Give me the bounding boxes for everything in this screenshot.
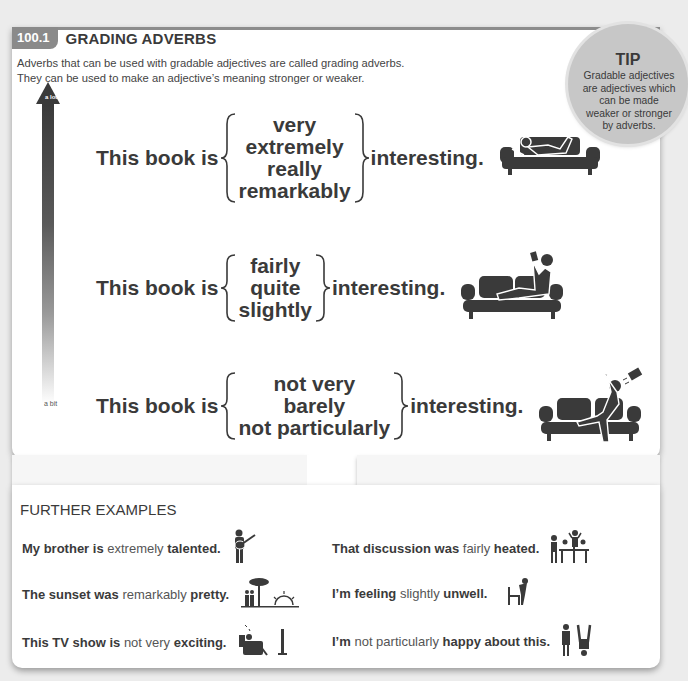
example-adverb: fairly [463,541,490,556]
right-brace-icon [351,112,371,204]
intensity-scale-arrow-icon [37,82,59,412]
example-lead: This book is [96,394,219,418]
intro-line: Adverbs that can be used with gradable a… [17,56,537,71]
example-text: unwell. [443,586,487,601]
example-text: heated. [494,541,540,556]
example-tail: interesting. [332,276,445,300]
example-text: That discussion was [332,541,459,556]
person-reclining-reading-on-couch-icon [459,250,565,326]
example-lead: This book is [96,146,219,170]
person-throwing-book-on-couch-icon [537,364,647,448]
upset-person-and-child-icon [560,623,592,660]
adverb-options: fairly quite slightly [239,255,313,321]
adverb-option: extremely [246,136,344,158]
further-example: That discussion was fairly heated. [332,529,589,568]
example-text: exciting. [174,635,227,650]
section-header: 100.1 GRADING ADVERBS [12,27,216,49]
people-arguing-at-table-icon [549,529,589,568]
adverb-option: fairly [250,255,300,277]
intro-text: Adverbs that can be used with gradable a… [17,56,537,86]
tip-title: TIP [568,52,688,68]
adverb-option: very [273,114,316,136]
example-adverb: remarkably [122,587,186,602]
example-row-medium: This book is fairly quite slightly inter… [96,250,565,326]
example-text: talented. [167,541,220,556]
adverb-option: really [267,158,322,180]
section-number-badge: 100.1 [12,27,58,49]
tab-connector [12,455,307,485]
adverb-option: slightly [239,299,313,321]
example-adverb: extremely [107,541,163,556]
example-adverb: not particularly [354,634,439,649]
tip-text: Gradable adjectives are adjectives which… [582,70,676,133]
scale-bottom-label: a bit [44,400,57,407]
left-brace-icon [219,253,239,323]
further-example: I’m feeling slightly unwell. [332,577,531,610]
adverb-option: barely [283,395,345,417]
person-lying-on-couch-icon [498,133,602,183]
section-title: GRADING ADVERBS [66,30,217,47]
further-example: This TV show is not very exciting. [22,623,291,662]
adverb-option: not very [274,373,356,395]
person-sleeping-in-front-of-tv-icon [237,623,291,662]
example-row-weak: This book is not very barely not particu… [96,364,647,448]
couple-watching-sunset-icon [239,577,299,612]
guitar-player-icon [231,529,257,568]
adverb-option: not particularly [239,417,391,439]
left-brace-icon [219,371,239,441]
example-row-strong: This book is very extremely really remar… [96,112,602,204]
example-text: I’m [332,634,351,649]
scale-top-label: a lot [45,94,57,100]
arrow-head [36,82,60,104]
example-text: This TV show is [22,635,120,650]
example-text: I’m feeling [332,586,396,601]
further-example: I’m not particularly happy about this. [332,623,592,660]
adverb-option: quite [250,277,300,299]
example-lead: This book is [96,276,219,300]
further-examples-panel: FURTHER EXAMPLES My brother is extremely… [12,485,660,668]
example-text: pretty. [190,587,229,602]
adverb-option: remarkably [239,180,351,202]
example-text: happy about this. [443,634,551,649]
right-brace-icon [312,253,332,323]
further-examples-title: FURTHER EXAMPLES [20,501,176,518]
arrow-shaft [42,104,54,404]
adverb-options: very extremely really remarkably [239,114,351,202]
example-tail: interesting. [410,394,523,418]
example-adverb: slightly [400,586,440,601]
person-feeling-sick-icon [507,577,531,610]
tab-gap [307,455,357,485]
tab-connector [357,455,660,485]
example-text: The sunset was [22,587,119,602]
example-text: My brother is [22,541,104,556]
further-example: My brother is extremely talented. [22,529,257,568]
tip-bubble: TIP Gradable adjectives are adjectives w… [568,24,688,144]
right-brace-icon [390,371,410,441]
further-example: The sunset was remarkably pretty. [22,577,299,612]
example-tail: interesting. [371,146,484,170]
left-brace-icon [219,112,239,204]
intro-line: They can be used to make an adjective’s … [17,71,537,86]
adverb-options: not very barely not particularly [239,373,391,439]
example-adverb: not very [124,635,170,650]
